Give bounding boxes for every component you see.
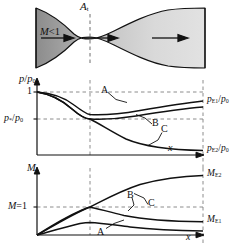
mach-curve-a <box>37 222 203 235</box>
pressure-tick-pstar: p*/p0 <box>4 113 23 123</box>
pressure-curve-label-c: C <box>161 124 168 134</box>
pressure-chart <box>0 78 244 173</box>
mach-tick-one: M=1 <box>8 201 27 211</box>
pressure-curve-label-a: A <box>101 85 108 95</box>
pressure-curve-b <box>37 92 203 119</box>
pressure-curve-label-b: B <box>152 118 159 128</box>
pressure-curve-a <box>37 92 203 115</box>
mach-curve-label-b: B <box>127 190 134 200</box>
mach-right-label-me2: ME2 <box>207 169 221 179</box>
pressure-right-label-pe2: pE2/p0 <box>207 144 229 154</box>
mach-curve-label-c: C <box>148 198 155 208</box>
mach-curve-label-a: A <box>97 227 104 237</box>
mach-right-label-me1: ME1 <box>207 215 221 225</box>
throat-area-label: At <box>80 1 89 13</box>
pressure-y-axis-label: p/p0 <box>19 74 36 85</box>
pressure-x-axis-label: x <box>168 143 172 153</box>
inlet-mach-label: M<1 <box>40 27 60 38</box>
flow-arrow-throat <box>84 35 118 42</box>
pressure-tick-one: 1 <box>27 86 32 96</box>
mach-y-axis-label: M <box>27 163 36 174</box>
pressure-right-label-pe1: pE1/p0 <box>207 95 229 105</box>
mach-x-axis-label: x <box>186 232 190 242</box>
figure-root: At M<1 <box>0 0 244 250</box>
nozzle-diagram <box>0 0 244 80</box>
